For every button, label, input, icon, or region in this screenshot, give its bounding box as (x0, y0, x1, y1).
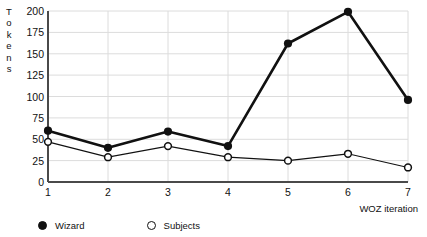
y-tick-label: 100 (0, 91, 44, 102)
x-tick-label: 4 (216, 186, 240, 198)
x-tick-label: 7 (396, 186, 420, 198)
x-tick-label: 2 (96, 186, 120, 198)
x-tick-label: 6 (336, 186, 360, 198)
y-tick-label: 75 (0, 113, 44, 124)
y-axis-tick-labels: 0 25 50 75 100 125 150 175 200 (0, 11, 44, 182)
x-tick-label: 5 (276, 186, 300, 198)
legend-item-label: Subjects (164, 220, 200, 231)
x-tick-label: 3 (156, 186, 180, 198)
y-tick-label: 200 (0, 6, 44, 17)
x-tick-label: 1 (36, 186, 60, 198)
filled-circle-icon (38, 221, 47, 230)
chart-legend: Wizard Subjects (38, 218, 200, 232)
legend-item-wizard: Wizard (38, 220, 85, 231)
x-axis-tick-labels: 1 2 3 4 5 6 7 (48, 186, 408, 200)
legend-item-subjects: Subjects (147, 220, 200, 231)
y-tick-label: 150 (0, 49, 44, 60)
y-tick-label: 125 (0, 70, 44, 81)
plot-area (48, 11, 408, 182)
y-tick-label: 50 (0, 134, 44, 145)
y-tick-label: 25 (0, 155, 44, 166)
chart-figure: T o k e n s 0 25 50 75 100 125 150 175 2… (0, 0, 427, 237)
open-circle-icon (147, 221, 156, 230)
x-axis-title: WOZ iteration (359, 203, 418, 214)
y-tick-label: 175 (0, 27, 44, 38)
plot-svg (48, 11, 408, 182)
legend-item-label: Wizard (55, 220, 85, 231)
